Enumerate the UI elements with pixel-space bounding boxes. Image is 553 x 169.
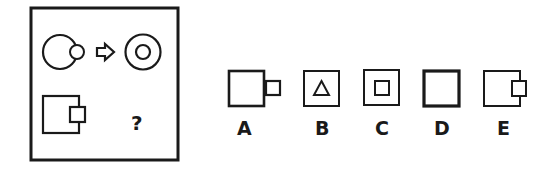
triangle-icon <box>314 81 329 95</box>
option-label: E <box>497 117 510 139</box>
outer-square-icon <box>364 70 399 105</box>
square-icon <box>304 71 339 106</box>
small-square-icon <box>512 81 526 96</box>
puzzle-canvas: ? A B C D E <box>0 0 553 169</box>
thick-square-icon <box>424 71 459 106</box>
example-result-shape <box>126 35 161 70</box>
inner-square-icon <box>375 81 389 95</box>
prompt-shape <box>43 96 85 133</box>
inner-circle-icon <box>136 45 150 59</box>
small-square-icon <box>266 81 280 95</box>
option-d[interactable]: D <box>424 71 459 139</box>
example-source-shape <box>43 35 84 69</box>
option-b[interactable]: B <box>304 71 339 139</box>
option-label: B <box>315 117 329 139</box>
question-mark: ? <box>131 111 143 135</box>
question-panel: ? <box>31 8 178 160</box>
option-label: D <box>434 117 450 139</box>
option-e[interactable]: E <box>484 71 526 139</box>
option-c[interactable]: C <box>364 70 399 139</box>
question-frame <box>31 8 178 160</box>
small-circle-icon <box>70 45 84 59</box>
outer-circle-icon <box>126 35 161 70</box>
option-a[interactable]: A <box>229 71 280 139</box>
option-label: A <box>237 117 252 139</box>
right-arrow-icon <box>97 44 114 60</box>
small-square-icon <box>70 107 85 122</box>
option-label: C <box>375 117 389 139</box>
large-square-icon <box>229 71 264 106</box>
